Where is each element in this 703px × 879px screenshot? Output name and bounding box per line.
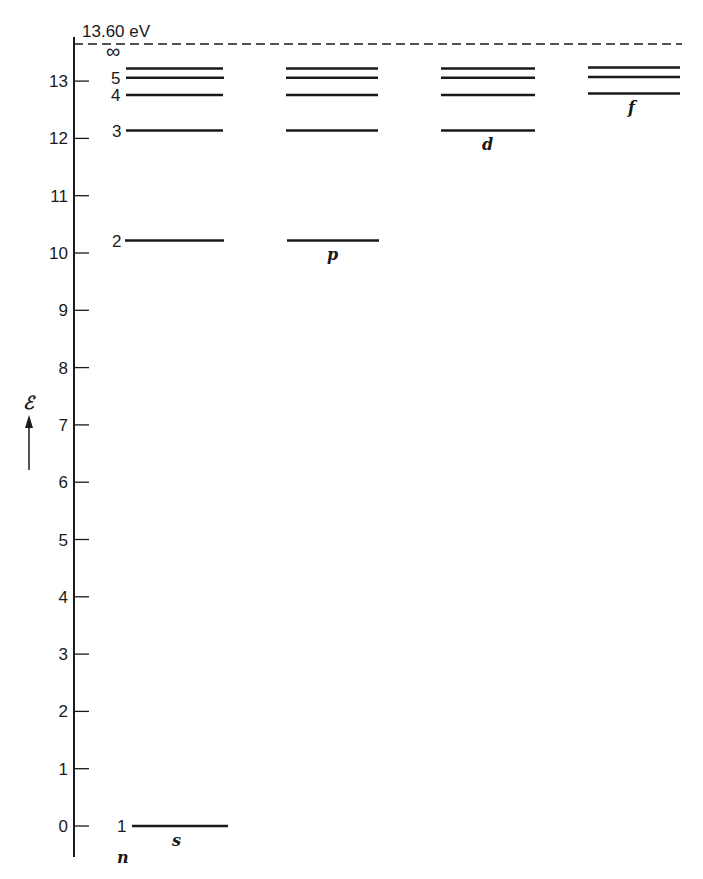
tick-label-5: 5	[59, 531, 68, 550]
s-label: s	[171, 831, 181, 850]
n-label-1: 1	[117, 817, 126, 836]
tick-label-13: 13	[49, 72, 68, 91]
n-label-2: 2	[112, 232, 121, 251]
ionization-energy-label: 13.60 eV	[82, 22, 151, 41]
tick-label-3: 3	[59, 645, 68, 664]
f-column-levels	[588, 68, 680, 94]
tick-label-11: 11	[50, 187, 68, 206]
p-column-levels	[286, 69, 379, 241]
f-label: f	[627, 98, 638, 117]
energy-symbol: ℰ	[23, 392, 36, 413]
tick-label-6: 6	[59, 473, 68, 492]
tick-label-12: 12	[49, 129, 68, 148]
axis-tick-labels: 0 1 2 3 4 5 6 7 8 9 10 11 12 13	[49, 72, 68, 836]
up-arrow-icon	[25, 415, 33, 470]
d-column-levels	[441, 69, 535, 131]
energy-level-diagram: 0 1 2 3 4 5 6 7 8 9 10 11 12 13 13.60 eV…	[0, 0, 703, 879]
d-label: d	[482, 135, 493, 154]
tick-label-4: 4	[59, 588, 68, 607]
tick-label-9: 9	[59, 301, 68, 320]
principal-quantum-number-labels: 5 4 3 2 1	[111, 69, 126, 836]
tick-label-2: 2	[59, 702, 68, 721]
tick-label-0: 0	[59, 817, 68, 836]
n-axis-label: n	[117, 848, 129, 867]
infinity-label: ∞	[106, 40, 120, 62]
tick-label-8: 8	[59, 359, 68, 378]
n-label-3: 3	[112, 122, 121, 141]
tick-label-1: 1	[59, 760, 68, 779]
p-label: p	[327, 245, 338, 264]
tick-label-7: 7	[59, 416, 68, 435]
s-column-levels	[125, 69, 228, 827]
tick-label-10: 10	[49, 244, 68, 263]
axis-ticks	[74, 81, 89, 826]
n-label-4: 4	[111, 86, 120, 105]
